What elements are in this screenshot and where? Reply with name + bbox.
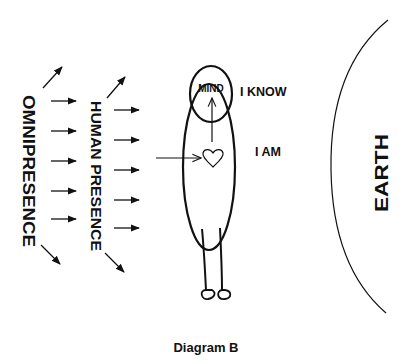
right-leg: [220, 228, 222, 290]
omnipresence-text: OMNIPRESENCE: [19, 95, 38, 247]
arrow-diagonal-up: [107, 77, 125, 98]
heart-icon: [203, 150, 223, 167]
omnipresence-label: OMNIPRESENCE: [19, 95, 38, 247]
right-foot: [218, 290, 230, 299]
diagram-caption: Diagram B: [173, 340, 238, 355]
i-know-label: I KNOW: [240, 85, 287, 99]
human-presence-text: HUMAN PRESENCE: [88, 101, 105, 251]
human-presence-label: HUMAN PRESENCE: [88, 101, 105, 251]
arrow-diagonal-down: [41, 245, 60, 264]
human-presence-arrows: [105, 77, 139, 272]
i-am-label: I AM: [255, 145, 281, 159]
omnipresence-arrows: [41, 67, 76, 264]
arrow-diagonal-up: [43, 67, 62, 88]
left-foot: [202, 290, 215, 299]
human-figure: [183, 66, 235, 299]
mind-label: MIND: [198, 83, 224, 94]
arrow-diagonal-down: [105, 253, 124, 272]
body: [183, 84, 235, 250]
diagram-canvas: OMNIPRESENCE HUMAN PRESENCE MIND: [0, 0, 411, 364]
earth-label: EARTH: [371, 134, 392, 212]
left-leg: [202, 229, 206, 290]
